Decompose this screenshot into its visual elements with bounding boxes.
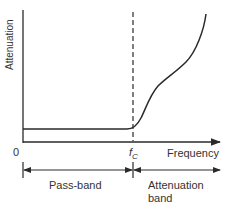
attenuation-band-label-line1: Attenuation [148, 179, 204, 191]
cutoff-label-sub: C [132, 152, 138, 161]
y-axis-label: Attenuation [4, 19, 15, 70]
origin-label: 0 [13, 146, 19, 158]
pass-band-label: Pass-band [49, 179, 102, 191]
attenuation-band-label-line2: band [148, 192, 172, 204]
cutoff-label: fC [129, 146, 138, 163]
attenuation-curve [23, 14, 206, 129]
x-axis-label: Frequency [167, 147, 219, 159]
